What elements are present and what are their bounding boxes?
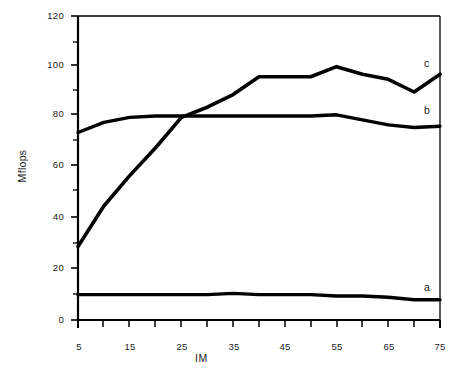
y-tick-label-60: 60 (30, 159, 64, 170)
x-tick-label-55: 55 (326, 341, 348, 352)
series-line-a (78, 293, 440, 299)
y-tick-label-20: 20 (30, 262, 64, 273)
x-axis-title: IM (195, 352, 208, 364)
x-tick-label-25: 25 (171, 341, 193, 352)
x-tick-label-75: 75 (429, 341, 451, 352)
x-tick-label-15: 15 (119, 341, 141, 352)
y-tick-label-120: 120 (30, 10, 64, 21)
y-tick-label-0: 0 (30, 314, 64, 325)
x-axis-ticks (78, 320, 440, 328)
x-tick-label-35: 35 (223, 341, 245, 352)
y-tick-label-40: 40 (30, 211, 64, 222)
series-line-c (78, 67, 440, 247)
chart-figure: 120 100 80 60 40 20 0 5 15 25 35 45 55 6… (0, 0, 459, 380)
plot-canvas (0, 0, 459, 380)
series-label-b: b (424, 104, 430, 116)
x-tick-label-65: 65 (378, 341, 400, 352)
series-label-c: c (424, 57, 429, 69)
x-tick-label-45: 45 (274, 341, 296, 352)
axes-frame (78, 16, 440, 320)
series-label-a: a (424, 281, 430, 293)
y-tick-label-100: 100 (30, 59, 64, 70)
y-tick-label-80: 80 (30, 108, 64, 119)
x-tick-label-5: 5 (68, 341, 90, 352)
series-line-b (78, 115, 440, 133)
y-axis-title: Mflops (16, 136, 28, 196)
